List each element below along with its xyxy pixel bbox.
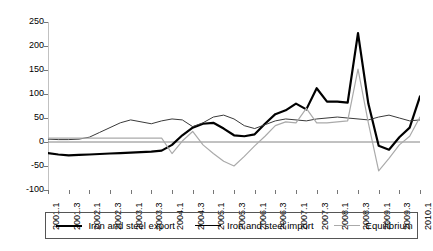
- y-tick-label: 100: [10, 89, 44, 98]
- x-tick-mark: [89, 190, 90, 194]
- legend-label-equilibrium: Equilibrium: [366, 221, 413, 231]
- x-tick-mark: [358, 190, 359, 194]
- x-tick-mark: [317, 190, 318, 194]
- plot-area: [48, 22, 420, 190]
- legend-label-import: Iron and steel import: [227, 221, 314, 231]
- x-tick-mark: [151, 190, 152, 194]
- x-tick-mark: [399, 190, 400, 194]
- y-tick-label: -100: [10, 185, 44, 194]
- legend-line-icon-equilibrium: [334, 225, 360, 226]
- x-tick-mark: [213, 190, 214, 194]
- x-tick-mark: [193, 190, 194, 194]
- y-tick-label: 250: [10, 17, 44, 26]
- legend-item-import: Iron and steel import: [189, 221, 314, 231]
- x-tick-mark: [48, 190, 49, 194]
- legend-label-export: Iron and steel export: [88, 221, 175, 231]
- legend-item-export: Iron and steel export: [50, 221, 175, 231]
- x-tick-mark: [172, 190, 173, 194]
- legend-line-icon-export: [56, 225, 82, 227]
- y-tick-label: 50: [10, 113, 44, 122]
- y-tick-label: 150: [10, 65, 44, 74]
- x-tick-mark: [420, 190, 421, 194]
- y-tick-label: -50: [10, 161, 44, 170]
- x-tick-mark: [337, 190, 338, 194]
- chart-svg: [48, 22, 420, 190]
- x-tick-label: 2010.1: [424, 202, 433, 230]
- x-tick-mark: [255, 190, 256, 194]
- chart-legend: Iron and steel export Iron and steel imp…: [45, 212, 418, 239]
- y-axis: 250200150100500-50-100: [0, 22, 44, 190]
- y-tick-label: 0: [10, 137, 44, 146]
- x-tick-mark: [296, 190, 297, 194]
- x-tick-mark: [275, 190, 276, 194]
- x-tick-mark: [69, 190, 70, 194]
- y-tick-label: 200: [10, 41, 44, 50]
- legend-item-equilibrium: Equilibrium: [328, 221, 413, 231]
- x-tick-mark: [110, 190, 111, 194]
- x-tick-mark: [234, 190, 235, 194]
- x-tick-mark: [379, 190, 380, 194]
- legend-line-icon-import: [195, 225, 221, 226]
- x-tick-mark: [131, 190, 132, 194]
- series-line-0: [48, 33, 420, 155]
